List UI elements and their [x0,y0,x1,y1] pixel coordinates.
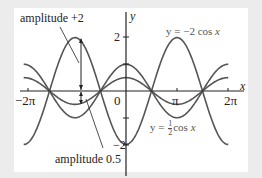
fraction-denominator: 2 [168,129,172,137]
pointer-amplitude-05 [86,99,103,148]
pointer-amplitude-2 [60,27,79,63]
tick-label-2: 2 [114,31,120,43]
fraction-half: 12 [168,120,172,137]
curve-label-half-var: x [191,121,196,133]
amplitude-2-marker [79,38,83,90]
curve-label-half-suffix: cos [173,121,190,133]
curve-label-half-prefix: y = [150,121,167,133]
curve-label-neg2cos: y = −2 cos x [166,26,220,37]
tick-label-0: 0 [114,94,121,107]
curve-label-neg2cos-text: y = −2 cos [166,25,215,37]
curve-label-neg2cos-var: x [215,25,220,37]
annotation-amplitude-2: amplitude +2 [20,12,84,24]
curve-label-halfcos: y = 12cos x [150,120,196,137]
tick-label-neg2pi: −2π [15,94,35,107]
annotation-amplitude-05: amplitude 0.5 [55,153,121,165]
tick-label-2pi: 2π [224,94,237,107]
y-axis-label: y [130,10,135,22]
tick-label-pi: π [172,94,179,107]
x-axis-label: x [240,80,245,92]
tick-label-neg2: −2 [113,139,126,151]
chart-plot [0,0,262,178]
